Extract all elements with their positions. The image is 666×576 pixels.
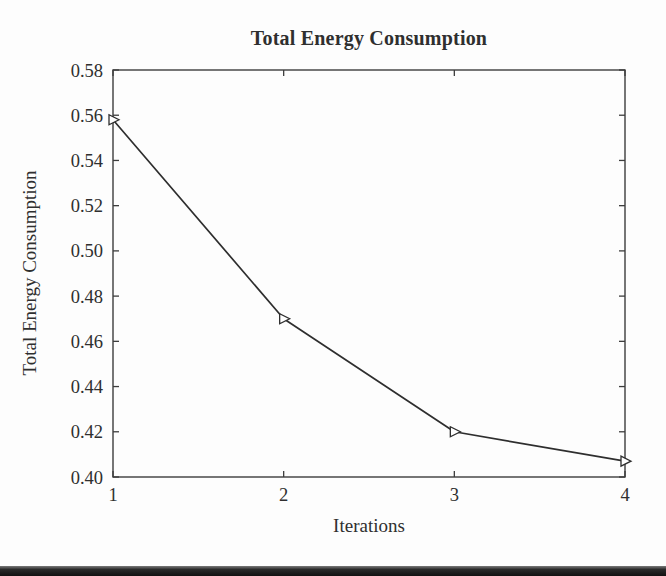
plot-area: 0.400.420.440.460.480.500.520.540.560.58… (0, 0, 666, 576)
svg-text:0.42: 0.42 (71, 422, 103, 442)
svg-text:0.52: 0.52 (71, 196, 103, 216)
svg-text:3: 3 (450, 485, 459, 505)
energy-consumption-chart: Total Energy Consumption Total Energy Co… (0, 0, 666, 576)
svg-text:2: 2 (279, 485, 288, 505)
svg-text:0.56: 0.56 (71, 106, 103, 126)
svg-text:0.58: 0.58 (71, 61, 103, 81)
x-axis-label: Iterations (113, 515, 625, 537)
svg-text:0.44: 0.44 (71, 377, 103, 397)
svg-text:0.50: 0.50 (71, 241, 103, 261)
svg-text:0.40: 0.40 (71, 468, 103, 488)
svg-text:4: 4 (620, 485, 629, 505)
page-edge-bar (0, 566, 666, 576)
svg-text:0.48: 0.48 (71, 287, 103, 307)
svg-text:1: 1 (108, 485, 117, 505)
svg-text:0.54: 0.54 (71, 151, 103, 171)
scanned-page: Total Energy Consumption Total Energy Co… (0, 0, 666, 576)
svg-text:0.46: 0.46 (71, 332, 103, 352)
